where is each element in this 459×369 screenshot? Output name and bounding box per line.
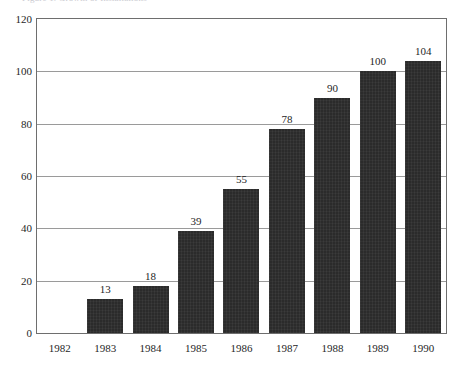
x-axis-tick-label: 1988 (310, 342, 355, 354)
bar-value-label: 104 (415, 46, 432, 57)
x-axis-tick-labels: 198219831984198519861987198819891990 (37, 342, 446, 358)
y-axis-tick-label: 40 (4, 223, 32, 234)
bar (223, 189, 259, 333)
bar-slot: 90 (310, 19, 355, 333)
bar-value-label: 55 (236, 174, 247, 185)
bar-value-label: 90 (327, 83, 338, 94)
bar-slot: 39 (173, 19, 218, 333)
bar-value-label: 13 (100, 284, 111, 295)
bar (133, 286, 169, 333)
bar (405, 61, 441, 333)
bar-slot: 104 (401, 19, 446, 333)
bar-slot: 78 (264, 19, 309, 333)
x-axis-tick-label: 1987 (264, 342, 309, 354)
bar (87, 299, 123, 333)
bar-slot: 13 (82, 19, 127, 333)
x-axis-tick-label: 1985 (173, 342, 218, 354)
x-axis-tick-label: 1982 (37, 342, 82, 354)
bar (178, 231, 214, 333)
y-axis-tick-label: 80 (4, 119, 32, 130)
bar (314, 98, 350, 334)
x-axis-tick-label: 1990 (401, 342, 446, 354)
y-axis-tick-label: 0 (4, 328, 32, 339)
bar-value-label: 18 (145, 271, 156, 282)
y-axis-tick-label: 60 (4, 171, 32, 182)
bar (360, 71, 396, 333)
x-axis-tick-label: 1986 (219, 342, 264, 354)
bar-slot: 18 (128, 19, 173, 333)
x-axis-tick-label: 1984 (128, 342, 173, 354)
bar-value-label: 39 (191, 216, 202, 227)
bar-value-label: 78 (281, 114, 292, 125)
y-axis-tick-label: 120 (4, 14, 32, 25)
bars-layer: 131839557890100104 (37, 19, 446, 333)
bar-value-label: 100 (370, 56, 387, 67)
bar-slot: 55 (219, 19, 264, 333)
x-axis-tick-label: 1989 (355, 342, 400, 354)
y-axis-tick-labels: 020406080100120 (0, 0, 32, 369)
bar (269, 129, 305, 333)
bar-chart: 020406080100120 131839557890100104 19821… (0, 0, 459, 369)
y-axis-tick-label: 100 (4, 66, 32, 77)
x-axis-tick-label: 1983 (82, 342, 127, 354)
bar-slot: 100 (355, 19, 400, 333)
y-axis-tick-label: 20 (4, 276, 32, 287)
bar-slot (37, 19, 82, 333)
